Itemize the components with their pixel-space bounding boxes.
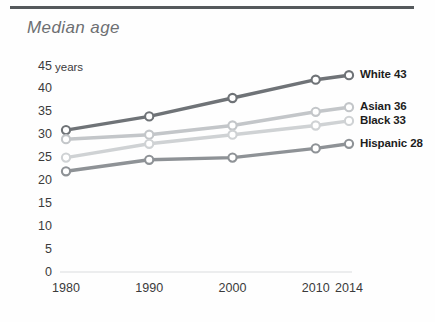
y-axis-tick-label: 40 — [24, 82, 52, 94]
y-axis-tick-label: 30 — [24, 128, 52, 140]
data-point-marker — [62, 154, 70, 162]
data-point-marker — [145, 112, 153, 120]
y-axis-tick-label: 25 — [24, 151, 52, 163]
data-point-marker — [62, 167, 70, 175]
x-axis-tick-label: 1980 — [44, 282, 88, 295]
y-axis-tick-label: 35 — [24, 105, 52, 117]
data-point-marker — [312, 76, 320, 84]
data-point-marker — [228, 121, 236, 129]
data-point-marker — [345, 71, 353, 79]
data-point-marker — [62, 135, 70, 143]
data-point-marker — [145, 156, 153, 164]
data-point-marker — [145, 131, 153, 139]
data-point-marker — [345, 117, 353, 125]
data-point-marker — [312, 108, 320, 116]
x-axis-tick-label: 2014 — [327, 282, 371, 295]
legend-item-black: Black 33 — [360, 114, 435, 127]
x-axis-tick-label: 2000 — [210, 282, 254, 295]
data-point-marker — [345, 103, 353, 111]
data-point-marker — [145, 140, 153, 148]
data-point-marker — [228, 94, 236, 102]
y-axis-tick-label: 0 — [24, 266, 52, 278]
legend-item-white: White 43 — [360, 68, 435, 81]
x-axis-tick-label: 1990 — [127, 282, 171, 295]
y-axis-tick-label: 5 — [24, 243, 52, 255]
series-hispanic — [62, 140, 353, 176]
data-point-marker — [312, 144, 320, 152]
data-point-marker — [345, 140, 353, 148]
data-point-marker — [228, 131, 236, 139]
line-chart-plot — [0, 0, 435, 322]
data-point-marker — [62, 126, 70, 134]
y-axis-tick-label: 45 — [24, 60, 52, 72]
y-axis-tick-label: 20 — [24, 174, 52, 186]
legend-item-asian: Asian 36 — [360, 100, 435, 113]
y-axis-tick-label: 15 — [24, 197, 52, 209]
data-point-marker — [312, 121, 320, 129]
data-point-marker — [228, 154, 236, 162]
legend-item-hispanic: Hispanic 28 — [360, 137, 435, 150]
y-axis-tick-label: 10 — [24, 220, 52, 232]
y-axis-unit-label: years — [55, 61, 83, 73]
